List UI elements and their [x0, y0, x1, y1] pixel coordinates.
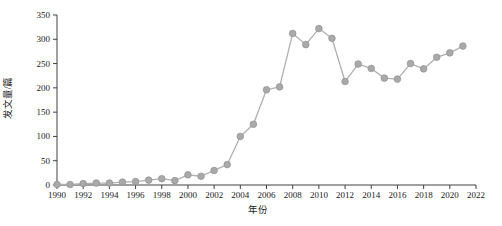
- x-tick-label: 2022: [467, 190, 485, 200]
- x-tick-label: 2012: [336, 190, 354, 200]
- y-tick-label: 150: [37, 107, 51, 117]
- data-point: [381, 75, 388, 82]
- data-point: [93, 180, 100, 187]
- data-point: [67, 181, 74, 188]
- data-point: [80, 180, 87, 187]
- x-tick-label: 2006: [258, 190, 277, 200]
- data-point: [185, 172, 192, 179]
- x-axis: 1990199219941996199820002002200420062008…: [48, 185, 485, 200]
- y-tick-label: 50: [41, 156, 51, 166]
- x-tick-label: 1996: [127, 190, 146, 200]
- data-point: [237, 133, 244, 140]
- x-tick-label: 2008: [284, 190, 303, 200]
- data-point: [447, 50, 454, 57]
- chart-canvas: 050100150200250300350 199019921994199619…: [0, 0, 502, 226]
- data-point: [198, 173, 205, 180]
- x-tick-label: 1992: [74, 190, 92, 200]
- y-axis: 050100150200250300350: [37, 10, 58, 190]
- data-point: [263, 87, 270, 94]
- data-point: [106, 180, 113, 187]
- data-series: [54, 25, 467, 188]
- y-tick-label: 0: [46, 180, 51, 190]
- data-line: [57, 29, 463, 185]
- y-tick-label: 300: [37, 34, 51, 44]
- data-point: [316, 25, 323, 32]
- data-point: [368, 65, 375, 72]
- data-point: [407, 60, 414, 67]
- data-point: [342, 78, 349, 85]
- x-tick-label: 1998: [153, 190, 172, 200]
- y-tick-label: 250: [37, 59, 51, 69]
- data-point: [250, 121, 257, 128]
- data-point: [460, 43, 467, 50]
- data-point: [145, 177, 152, 184]
- data-point: [302, 41, 309, 48]
- data-point: [132, 178, 139, 185]
- data-point: [289, 30, 296, 37]
- y-axis-title: 发文量/篇: [2, 77, 13, 120]
- x-tick-label: 2010: [310, 190, 329, 200]
- data-point: [329, 35, 336, 42]
- y-tick-label: 100: [37, 131, 51, 141]
- y-tick-label: 350: [37, 10, 51, 20]
- x-tick-label: 1990: [48, 190, 67, 200]
- x-tick-label: 2002: [205, 190, 223, 200]
- x-axis-title: 年份: [248, 204, 268, 215]
- data-point: [158, 175, 165, 182]
- x-tick-label: 2016: [388, 190, 407, 200]
- data-point: [172, 177, 179, 184]
- data-point: [224, 161, 231, 168]
- data-point: [54, 181, 61, 188]
- x-tick-label: 2020: [441, 190, 460, 200]
- data-point: [211, 167, 218, 174]
- y-tick-label: 200: [37, 83, 51, 93]
- x-tick-label: 2000: [179, 190, 198, 200]
- x-tick-label: 1994: [100, 190, 119, 200]
- publications-by-year-line-chart: 050100150200250300350 199019921994199619…: [0, 0, 502, 226]
- x-tick-label: 2014: [362, 190, 381, 200]
- x-tick-label: 2018: [415, 190, 434, 200]
- data-point: [420, 66, 427, 73]
- data-point: [119, 179, 126, 186]
- x-tick-label: 2004: [231, 190, 250, 200]
- data-point: [433, 54, 440, 61]
- data-point: [355, 61, 362, 68]
- data-point: [394, 76, 401, 83]
- data-point: [276, 84, 283, 91]
